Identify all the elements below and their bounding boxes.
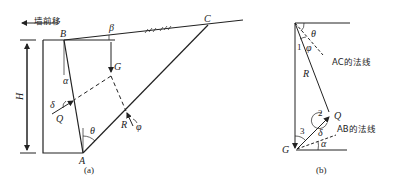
AB-normal-label: AB的法线	[337, 124, 376, 134]
vector-R-label: R	[302, 68, 309, 79]
vertex-number-2: 2	[318, 108, 323, 118]
AB-normal-line	[297, 135, 336, 149]
point-G-b: G	[282, 144, 289, 155]
caption-b: (b)	[316, 165, 327, 175]
angle-alpha-b: α	[321, 138, 327, 149]
point-C: C	[204, 13, 211, 24]
angle-theta-b: θ	[311, 28, 316, 39]
point-R: R	[120, 119, 127, 130]
angle-phi-b: φ	[306, 42, 312, 53]
point-Q-b: Q	[334, 110, 342, 121]
angle-beta: β	[108, 22, 114, 33]
angle-delta-b: δ	[318, 127, 323, 138]
Q-dashed-line	[74, 76, 111, 100]
caption-a: (a)	[84, 165, 94, 175]
point-B: B	[60, 28, 66, 39]
slip-plane-AC	[83, 25, 208, 153]
R-dashed-line	[111, 76, 126, 111]
point-G: G	[114, 61, 121, 72]
angle-3-arc	[295, 136, 306, 141]
height-label: H	[14, 92, 25, 101]
angle-delta: δ	[50, 99, 55, 110]
theta-arc-b	[301, 23, 304, 31]
R-force-arrow	[127, 113, 133, 126]
vertex-number-3: 3	[300, 126, 305, 136]
point-Q: Q	[56, 113, 64, 124]
diagram-canvas: 墙前移 B β C G α H δ Q θ R φ A (a) θ 1 φ AC…	[0, 0, 397, 186]
angle-alpha: α	[63, 75, 69, 86]
vertex-number-1: 1	[297, 42, 302, 52]
figure-a	[20, 20, 243, 153]
retaining-wall	[43, 40, 83, 153]
ground-surface	[64, 20, 243, 40]
angle-phi: φ	[136, 121, 142, 132]
AC-normal-label: AC的法线	[332, 57, 371, 67]
angle-theta: θ	[90, 125, 95, 136]
theta-arc	[83, 136, 95, 141]
wall-move-label: 墙前移	[34, 16, 61, 26]
